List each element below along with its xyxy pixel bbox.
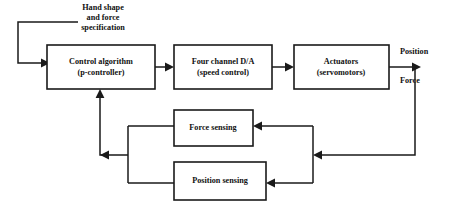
- position-sensing-label: Position sensing: [192, 176, 249, 185]
- da-to-actuators-wire: [272, 63, 294, 72]
- block-four-channel-da: Four channel D/A (speed control): [174, 45, 272, 89]
- bus-to-force-sensing-wire: [253, 122, 313, 131]
- actuators-label-line2: (servomotors): [317, 68, 366, 77]
- diagram-canvas: Hand shape and force specification Contr…: [0, 0, 453, 220]
- four-channel-da-label-line1: Four channel D/A: [192, 57, 255, 66]
- output-wire: [389, 63, 421, 72]
- position-sensing-arrowhead: [266, 179, 275, 188]
- block-position-sensing: Position sensing: [174, 162, 266, 200]
- da-to-actuators-arrowhead: [285, 63, 294, 72]
- position-output-label: Position: [400, 47, 429, 56]
- feedback-tap-arrowhead: [313, 151, 322, 160]
- return-left-arrowhead: [100, 151, 109, 160]
- force-sensing-arrowhead: [253, 122, 262, 131]
- four-channel-da-label-line2: (speed control): [197, 68, 249, 77]
- block-force-sensing: Force sensing: [174, 110, 253, 146]
- input-label-line1: Hand shape: [82, 3, 124, 12]
- control-algorithm-label-line1: Control algorithm: [69, 57, 133, 66]
- input-label-line2: and force: [87, 13, 120, 22]
- block-diagram-figure: Hand shape and force specification Contr…: [0, 0, 453, 220]
- block-actuators: Actuators (servomotors): [294, 45, 389, 89]
- controller-to-da-arrowhead: [165, 63, 174, 72]
- bus-to-position-sensing-wire: [266, 179, 313, 188]
- control-algorithm-label-line2: (p-controller): [77, 68, 124, 77]
- output-arrowhead: [412, 63, 421, 72]
- input-label-line3: specification: [81, 23, 125, 32]
- force-sensing-label: Force sensing: [189, 123, 237, 132]
- block-control-algorithm: Control algorithm (p-controller): [47, 45, 155, 89]
- controller-to-da-wire: [155, 63, 174, 72]
- force-output-label: Force: [400, 76, 420, 85]
- actuators-label-line1: Actuators: [324, 57, 359, 66]
- return-up-arrowhead: [96, 89, 105, 98]
- return-to-controller-wire: [96, 89, 128, 159]
